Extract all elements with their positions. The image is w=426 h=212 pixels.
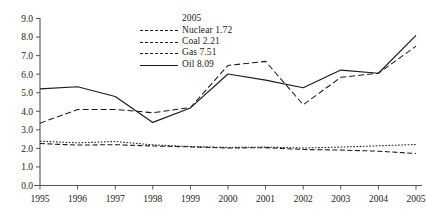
y-tick-label: 3.0 (21, 125, 33, 135)
x-tick-label: 2004 (369, 194, 388, 204)
x-tick-label: 2003 (331, 194, 350, 204)
legend-title: 2005 (182, 14, 232, 24)
x-tick-label: 1995 (31, 194, 50, 204)
legend-line-oil-icon (140, 59, 178, 70)
legend-line-nuclear-icon (140, 25, 178, 36)
x-tick-label: 2000 (219, 194, 238, 204)
legend-label-gas: Gas 7.51 (182, 48, 217, 58)
x-tick-label: 1996 (68, 194, 87, 204)
series-line-nuclear (40, 144, 416, 154)
legend-line-gas-icon (140, 48, 178, 59)
legend-item-coal: Coal 2.21 (140, 36, 232, 47)
y-tick-label: 4.0 (21, 107, 33, 117)
legend-item-nuclear: Nuclear 1.72 (140, 25, 232, 36)
line-chart: 0.01.02.03.04.05.06.07.08.09.01995199619… (0, 0, 426, 212)
y-tick-label: 5.0 (21, 88, 33, 98)
x-tick-label: 2001 (256, 194, 275, 204)
legend-label-nuclear: Nuclear 1.72 (182, 26, 232, 36)
y-tick-label: 9.0 (21, 14, 33, 24)
legend-label-coal: Coal 2.21 (182, 37, 220, 47)
chart-legend: 2005 Nuclear 1.72 Coal 2.21 Gas 7.51 Oil… (140, 14, 232, 70)
y-tick-label: 8.0 (21, 32, 33, 42)
x-tick-label: 2002 (294, 194, 313, 204)
y-tick-label: 7.0 (21, 51, 33, 61)
x-tick-label: 1999 (181, 194, 200, 204)
x-tick-label: 2005 (407, 194, 426, 204)
legend-item-gas: Gas 7.51 (140, 47, 232, 58)
legend-label-oil: Oil 8.09 (182, 60, 214, 70)
y-tick-label: 2.0 (21, 144, 33, 154)
legend-item-oil: Oil 8.09 (140, 59, 232, 70)
y-tick-label: 1.0 (21, 162, 33, 172)
x-tick-label: 1998 (143, 194, 162, 204)
y-tick-label: 6.0 (21, 70, 33, 80)
y-tick-label: 0.0 (21, 181, 33, 191)
legend-line-coal-icon (140, 36, 178, 47)
x-tick-label: 1997 (106, 194, 125, 204)
